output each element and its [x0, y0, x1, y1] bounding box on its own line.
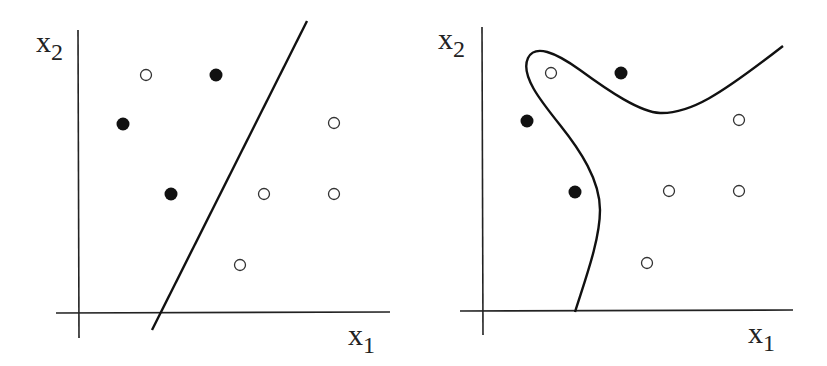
open-point: [329, 118, 340, 129]
y-axis: [78, 30, 79, 338]
decision-boundary-curve: [526, 46, 783, 312]
y-axis-label: x2: [36, 25, 63, 65]
open-point: [329, 189, 340, 200]
open-point: [141, 70, 152, 81]
filled-point: [521, 115, 534, 128]
filled-point: [117, 118, 130, 131]
open-point: [664, 186, 675, 197]
figure: x2 x1 x2 x1: [0, 0, 827, 366]
x-axis: [56, 312, 390, 313]
open-point: [642, 258, 653, 269]
right-panel: x2 x1: [438, 22, 793, 356]
filled-point: [569, 186, 582, 199]
x-axis: [460, 310, 793, 311]
open-point: [734, 186, 745, 197]
open-point: [734, 115, 745, 126]
open-point: [235, 260, 246, 271]
filled-point: [165, 188, 178, 201]
filled-point: [210, 69, 223, 82]
decision-boundary-line: [152, 21, 307, 330]
filled-point: [615, 67, 628, 80]
y-axis-label: x2: [438, 22, 465, 62]
x-axis-label: x1: [748, 316, 775, 356]
open-point: [259, 189, 270, 200]
y-axis: [482, 27, 483, 335]
x-axis-label: x1: [348, 318, 375, 358]
open-point: [546, 68, 557, 79]
left-panel: x2 x1: [36, 21, 390, 358]
